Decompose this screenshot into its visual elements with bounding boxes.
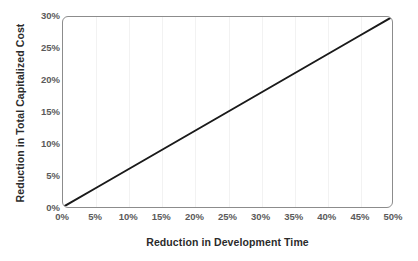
x-axis-tick-labels: 0%5%10%15%20%25%30%35%40%45%50% bbox=[0, 211, 418, 225]
x-tick-label: 50% bbox=[368, 211, 418, 223]
y-tick-label: 20% bbox=[14, 75, 60, 85]
y-tick-label: 15% bbox=[14, 107, 60, 117]
y-tick-label: 5% bbox=[14, 171, 60, 181]
y-tick-label: 30% bbox=[14, 11, 60, 21]
chart-figure: Reduction in Total Capitalized Cost 0%5%… bbox=[0, 0, 418, 261]
plot-area bbox=[62, 16, 393, 208]
data-line-svg bbox=[63, 17, 392, 207]
x-axis-title: Reduction in Development Time bbox=[62, 236, 393, 248]
data-series-line bbox=[63, 17, 392, 207]
y-tick-label: 25% bbox=[14, 43, 60, 53]
y-tick-label: 10% bbox=[14, 139, 60, 149]
